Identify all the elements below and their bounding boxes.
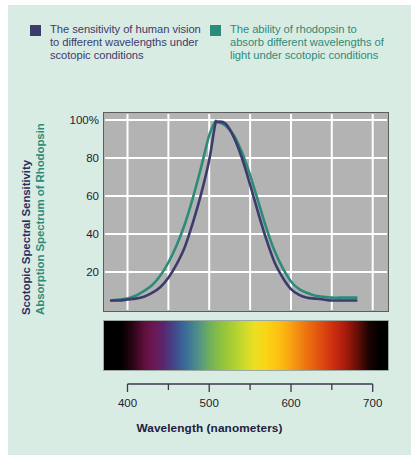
x-axis-title: Wavelength (nanometers) [8,421,411,435]
x-tick-700: 700 [351,397,395,409]
x-axis-ticks [103,383,389,397]
x-tick-500: 500 [187,397,231,409]
legend-entry-rhodopsin-absorption: The ability of rhodopsin to absorb diffe… [210,23,390,63]
y-tick-40: 40 [59,228,99,240]
legend-label-scotopic-sensitivity: The sensitivity of human vision to diffe… [50,23,202,63]
x-tick-600: 600 [269,397,313,409]
curve-rhodopsin-absorption [111,121,356,301]
data-curves [111,121,356,301]
plot-canvas [103,112,389,312]
legend-entry-scotopic-sensitivity: The sensitivity of human vision to diffe… [30,23,202,63]
y-tick-80: 80 [59,152,99,164]
y-axis-title-scotopic-sensitivity: Scotopic Spectral Sensitivity [20,160,32,315]
y-tick-20: 20 [59,266,99,278]
x-axis: 400 500 600 700 [103,383,389,417]
legend-label-rhodopsin-absorption: The ability of rhodopsin to absorb diffe… [230,23,390,63]
figure-root: The sensitivity of human vision to diffe… [0,0,419,471]
y-tick-100: 100% [59,114,99,126]
curve-scotopic-sensitivity [111,122,356,301]
x-tick-400: 400 [106,397,150,409]
chart-panel: The sensitivity of human vision to diffe… [8,5,411,455]
legend: The sensitivity of human vision to diffe… [8,5,411,85]
y-axis-tick-labels: 100% 80 60 40 20 [55,112,99,312]
y-tick-60: 60 [59,190,99,202]
legend-swatch-scotopic-sensitivity [30,25,41,36]
plot-region [103,112,389,312]
visible-light-spectrum-bar [103,320,389,371]
legend-swatch-rhodopsin-absorption [210,25,221,36]
gridlines [105,114,387,310]
y-axis-title-rhodopsin-absorption: Absorption Spectrum of Rhodopsin [34,123,46,315]
